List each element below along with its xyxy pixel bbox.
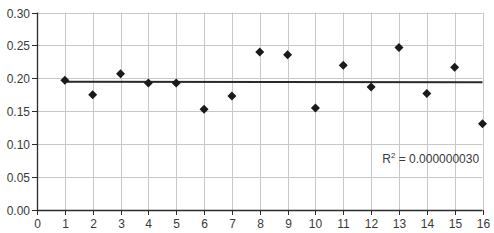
y-tick-label: 0.15 [7,105,31,119]
x-axis-ticks: 012345678910111213141516 [34,210,490,231]
data-points [60,43,487,128]
x-tick-label: 8 [257,217,264,231]
x-tick-label: 7 [229,217,236,231]
y-tick-label: 0.05 [7,171,31,185]
y-tick-label: 0.20 [7,72,31,86]
data-point-diamond [172,78,181,87]
x-tick-label: 2 [90,217,97,231]
x-tick-label: 5 [173,217,180,231]
x-tick-label: 9 [285,217,292,231]
chart-svg: 012345678910111213141516 0.000.050.100.1… [0,0,494,233]
data-point-diamond [88,90,97,99]
data-point-diamond [394,43,403,52]
x-tick-label: 3 [118,217,125,231]
data-point-diamond [227,92,236,101]
y-tick-label: 0.00 [7,204,31,218]
x-tick-label: 16 [477,217,491,231]
y-axis-ticks: 0.000.050.100.150.200.250.30 [7,7,37,218]
gridlines [37,13,484,211]
data-point-diamond [450,63,459,72]
x-tick-label: 10 [309,217,323,231]
data-point-diamond [367,82,376,91]
data-point-diamond [116,69,125,78]
x-tick-label: 1 [62,217,69,231]
x-tick-label: 0 [34,217,41,231]
trendline [65,82,483,83]
x-tick-label: 13 [393,217,407,231]
x-tick-label: 4 [145,217,152,231]
y-tick-label: 0.25 [7,39,31,53]
data-point-diamond [255,48,264,57]
data-point-diamond [478,119,487,128]
scatter-chart: 012345678910111213141516 0.000.050.100.1… [0,0,494,233]
data-point-diamond [200,105,209,114]
r-squared-annotation: R2 = 0.000000030 [382,151,479,166]
y-tick-label: 0.10 [7,138,31,152]
x-tick-label: 14 [421,217,435,231]
data-point-diamond [422,89,431,98]
data-point-diamond [339,61,348,70]
linear-trendline [65,82,483,83]
x-tick-label: 6 [201,217,208,231]
data-point-diamond [283,50,292,59]
r-squared-label: R2 = 0.000000030 [382,151,479,166]
x-tick-label: 15 [449,217,463,231]
y-tick-label: 0.30 [7,7,31,21]
x-tick-label: 12 [365,217,379,231]
data-point-diamond [144,78,153,87]
x-tick-label: 11 [337,217,350,231]
data-point-diamond [60,76,69,85]
